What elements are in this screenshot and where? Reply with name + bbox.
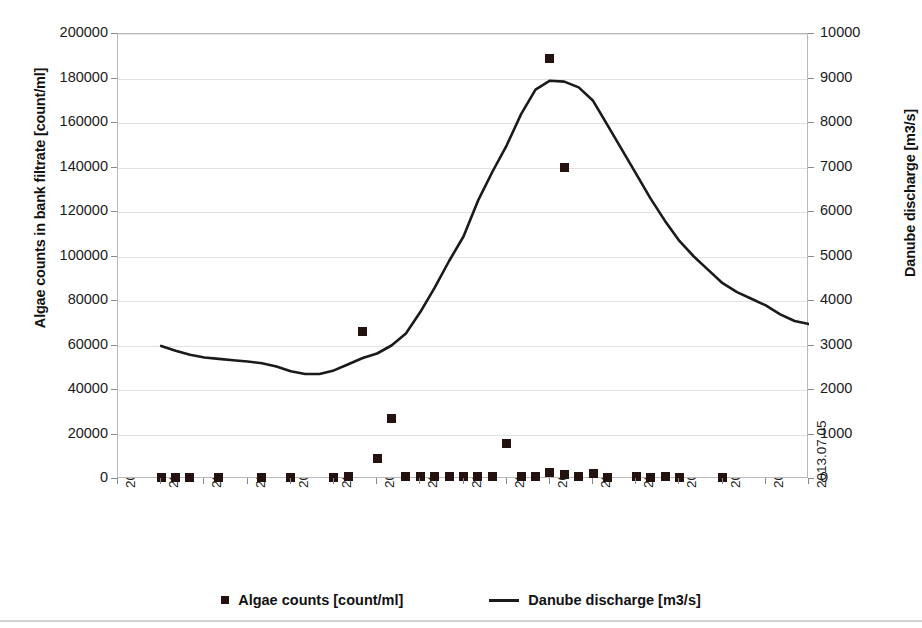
y-axis-right-tick-label: 6000 bbox=[820, 202, 852, 218]
x-axis-tick bbox=[247, 478, 248, 484]
data-point-marker bbox=[560, 163, 569, 172]
y-axis-right-tick-label: 7000 bbox=[820, 158, 852, 174]
data-point-marker bbox=[560, 470, 569, 479]
y-axis-right-tick bbox=[808, 300, 814, 301]
y-axis-right-tick bbox=[808, 33, 814, 34]
data-point-marker bbox=[473, 472, 482, 481]
data-point-marker bbox=[589, 469, 598, 478]
x-axis-tick bbox=[203, 478, 204, 484]
data-point-marker bbox=[329, 473, 338, 482]
bottom-divider bbox=[0, 620, 922, 622]
y-axis-right-title: Danube discharge [m3/s] bbox=[902, 0, 918, 413]
y-axis-right-tick bbox=[808, 256, 814, 257]
y-axis-left-tick-label: 60000 bbox=[0, 336, 108, 352]
data-point-marker bbox=[488, 472, 497, 481]
y-axis-right-tick bbox=[808, 78, 814, 79]
data-point-marker bbox=[545, 468, 554, 477]
y-axis-left-tick bbox=[111, 256, 117, 257]
y-axis-left-tick bbox=[111, 167, 117, 168]
y-axis-left-tick-label: 120000 bbox=[0, 202, 108, 218]
y-axis-right-tick-label: 4000 bbox=[820, 291, 852, 307]
data-point-marker bbox=[171, 473, 180, 482]
legend-label-danube-discharge: Danube discharge [m3/s] bbox=[528, 592, 700, 608]
x-axis-tick bbox=[808, 478, 809, 484]
y-axis-right-tick-label: 5000 bbox=[820, 247, 852, 263]
data-point-marker bbox=[358, 327, 367, 336]
line-marker-icon bbox=[489, 599, 519, 602]
y-axis-right-tick bbox=[808, 122, 814, 123]
chart-container: Algae counts in bank filtrate [count/ml]… bbox=[0, 0, 922, 628]
legend-label-algae-counts: Algae counts [count/ml] bbox=[238, 592, 403, 608]
x-axis-tick bbox=[765, 478, 766, 484]
y-axis-right-tick bbox=[808, 389, 814, 390]
x-axis-tick-label: 2013.07.05 bbox=[814, 420, 829, 488]
x-axis-tick bbox=[419, 478, 420, 484]
x-axis-tick bbox=[290, 478, 291, 484]
legend-item-danube-discharge: Danube discharge [m3/s] bbox=[489, 592, 700, 608]
y-axis-left-tick bbox=[111, 300, 117, 301]
data-point-marker bbox=[157, 473, 166, 482]
y-axis-left-tick bbox=[111, 211, 117, 212]
data-point-marker bbox=[257, 473, 266, 482]
data-point-marker bbox=[545, 54, 554, 63]
y-axis-right-tick-label: 8000 bbox=[820, 113, 852, 129]
data-point-marker bbox=[603, 473, 612, 482]
x-axis-tick bbox=[506, 478, 507, 484]
x-axis-tick bbox=[592, 478, 593, 484]
x-axis-tick bbox=[333, 478, 334, 484]
data-point-marker bbox=[459, 472, 468, 481]
y-axis-left-tick-label: 20000 bbox=[0, 425, 108, 441]
data-point-marker bbox=[646, 473, 655, 482]
data-point-marker bbox=[214, 473, 223, 482]
y-axis-left-tick bbox=[111, 434, 117, 435]
data-point-marker bbox=[531, 472, 540, 481]
x-axis-tick bbox=[635, 478, 636, 484]
y-axis-left-tick bbox=[111, 122, 117, 123]
data-point-marker bbox=[517, 472, 526, 481]
y-axis-left-tick-label: 80000 bbox=[0, 291, 108, 307]
data-point-marker bbox=[574, 472, 583, 481]
y-axis-left-tick bbox=[111, 345, 117, 346]
square-marker-icon bbox=[221, 596, 229, 604]
y-axis-left-tick-label: 0 bbox=[0, 469, 108, 485]
data-point-marker bbox=[661, 472, 670, 481]
y-axis-left-tick bbox=[111, 78, 117, 79]
data-point-marker bbox=[430, 472, 439, 481]
y-axis-left-tick-label: 180000 bbox=[0, 69, 108, 85]
data-point-marker bbox=[401, 472, 410, 481]
chart-legend: Algae counts [count/ml] Danube discharge… bbox=[0, 592, 922, 608]
data-point-marker bbox=[185, 473, 194, 482]
y-axis-left-tick-label: 100000 bbox=[0, 247, 108, 263]
data-point-marker bbox=[373, 454, 382, 463]
data-point-marker bbox=[286, 473, 295, 482]
y-axis-right-tick-label: 9000 bbox=[820, 69, 852, 85]
y-axis-right-tick bbox=[808, 211, 814, 212]
y-axis-right-tick bbox=[808, 167, 814, 168]
x-axis-tick bbox=[117, 478, 118, 484]
data-point-marker bbox=[632, 472, 641, 481]
y-axis-left-tick-label: 160000 bbox=[0, 113, 108, 129]
data-point-marker bbox=[675, 473, 684, 482]
y-axis-left-tick-label: 200000 bbox=[0, 24, 108, 40]
y-axis-left-tick bbox=[111, 389, 117, 390]
data-point-marker bbox=[718, 473, 727, 482]
x-axis-tick bbox=[549, 478, 550, 484]
data-point-marker bbox=[416, 472, 425, 481]
data-point-marker bbox=[445, 472, 454, 481]
y-axis-right-tick-label: 2000 bbox=[820, 380, 852, 396]
y-axis-left-tick-label: 40000 bbox=[0, 380, 108, 396]
x-axis-tick bbox=[160, 478, 161, 484]
x-axis-tick bbox=[463, 478, 464, 484]
x-axis-tick bbox=[678, 478, 679, 484]
danube-discharge-line bbox=[118, 34, 809, 479]
y-axis-right-tick-label: 10000 bbox=[820, 24, 860, 40]
data-point-marker bbox=[502, 439, 511, 448]
data-point-marker bbox=[344, 472, 353, 481]
x-axis-tick bbox=[722, 478, 723, 484]
x-axis-tick bbox=[376, 478, 377, 484]
plot-area bbox=[117, 33, 808, 478]
y-axis-right-tick bbox=[808, 345, 814, 346]
legend-item-algae-counts: Algae counts [count/ml] bbox=[221, 592, 403, 608]
y-axis-left-tick-label: 140000 bbox=[0, 158, 108, 174]
y-axis-left-tick bbox=[111, 33, 117, 34]
